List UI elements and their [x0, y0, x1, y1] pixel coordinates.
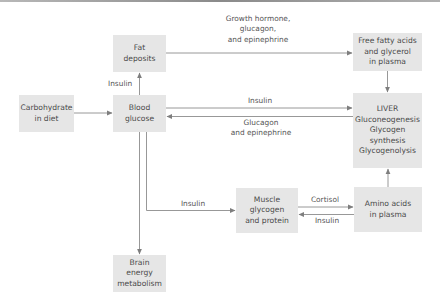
node-text: Glycogen [370, 125, 406, 136]
node-text: deposits [124, 54, 156, 65]
node-text: Glycogenolysis [359, 146, 416, 157]
node-amino-acids: Amino acids in plasma [354, 187, 422, 232]
node-text: Brain [130, 258, 150, 269]
node-blood-glucose: Blood glucose [113, 95, 166, 132]
node-text: Blood [129, 103, 150, 114]
label-fat-to-ffa: Growth hormone, glucagon, and epinephrin… [223, 14, 293, 45]
node-fat-deposits: Fat deposits [113, 35, 166, 72]
node-carbohydrate-in-diet: Carbohydrate in diet [19, 95, 74, 132]
label-line: Growth hormone, [223, 14, 293, 24]
label-amino-to-muscle: Insulin [307, 216, 347, 226]
node-muscle-glycogen: Muscle glycogen and protein [236, 188, 298, 233]
label-line: and epinephrine [226, 128, 296, 138]
label-line: and epinephrine [223, 35, 293, 45]
label-line: Glucagon [226, 118, 296, 128]
node-text: and glycerol [364, 47, 411, 58]
label-blood-to-fat: Insulin [108, 79, 138, 89]
node-text: in plasma [370, 210, 407, 221]
node-text: metabolism [117, 279, 162, 290]
node-text: in diet [35, 114, 59, 125]
node-free-fatty-acids: Free fatty acids and glycerol in plasma [353, 33, 422, 71]
label-line: glucagon, [223, 24, 293, 34]
node-text: Muscle [254, 195, 280, 206]
node-text: Gluconeogenesis [355, 115, 420, 126]
node-text: Free fatty acids [358, 36, 416, 47]
node-text: glycogen [250, 205, 285, 216]
node-text: synthesis [370, 136, 406, 147]
node-text: in plasma [369, 57, 406, 68]
label-blood-to-liver: Insulin [230, 96, 290, 106]
label-blood-to-muscle: Insulin [173, 199, 213, 209]
node-text: energy [126, 268, 152, 279]
node-text: Amino acids [365, 199, 411, 210]
node-text: and protein [245, 216, 289, 227]
node-text: glucose [125, 114, 154, 125]
label-liver-to-blood: Glucagon and epinephrine [226, 118, 296, 139]
node-brain-energy: Brain energy metabolism [113, 255, 166, 292]
node-text: Fat [134, 43, 145, 54]
node-liver: LIVER Gluconeogenesis Glycogen synthesis… [353, 93, 422, 168]
label-muscle-to-amino: Cortisol [305, 195, 345, 205]
node-text: Carbohydrate [20, 103, 72, 114]
node-text: LIVER [377, 104, 399, 115]
